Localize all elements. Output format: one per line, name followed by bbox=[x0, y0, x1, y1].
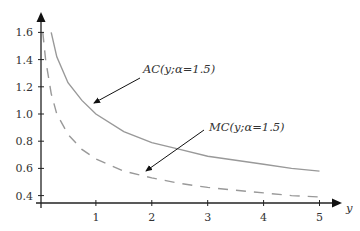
y-axis-arrow-icon bbox=[37, 12, 46, 22]
mc-label: MC(y;α=1.5) bbox=[208, 120, 285, 134]
ac-label: AC(y;α=1.5) bbox=[142, 62, 215, 76]
plot-area bbox=[43, 32, 320, 197]
ac-arrow bbox=[94, 78, 140, 103]
x-tick-label: 2 bbox=[148, 211, 155, 224]
y-tick-label: 1.2 bbox=[16, 81, 34, 94]
mc-curve bbox=[43, 32, 320, 197]
y-tick-label: 1.0 bbox=[16, 108, 34, 121]
x-tick-label: 5 bbox=[316, 211, 323, 224]
x-axis-label: y bbox=[345, 201, 353, 215]
y-ticks: 0.40.60.81.01.21.41.6 bbox=[16, 26, 45, 202]
x-tick-label: 3 bbox=[204, 211, 211, 224]
y-tick-label: 0.4 bbox=[16, 190, 34, 203]
chart: 12345 0.40.60.81.01.21.41.6 y AC(y;α=1.5… bbox=[0, 0, 360, 231]
x-axis-arrow-icon bbox=[332, 199, 342, 208]
x-tick-label: 1 bbox=[92, 211, 99, 224]
mc-arrow bbox=[146, 130, 204, 171]
y-tick-label: 0.8 bbox=[16, 135, 34, 148]
y-tick-label: 1.4 bbox=[16, 54, 34, 67]
chart-svg: 12345 0.40.60.81.01.21.41.6 y AC(y;α=1.5… bbox=[0, 0, 360, 231]
x-tick-label: 4 bbox=[260, 211, 267, 224]
y-tick-label: 0.6 bbox=[16, 162, 34, 175]
y-tick-label: 1.6 bbox=[16, 26, 34, 39]
ac-curve bbox=[51, 32, 319, 171]
